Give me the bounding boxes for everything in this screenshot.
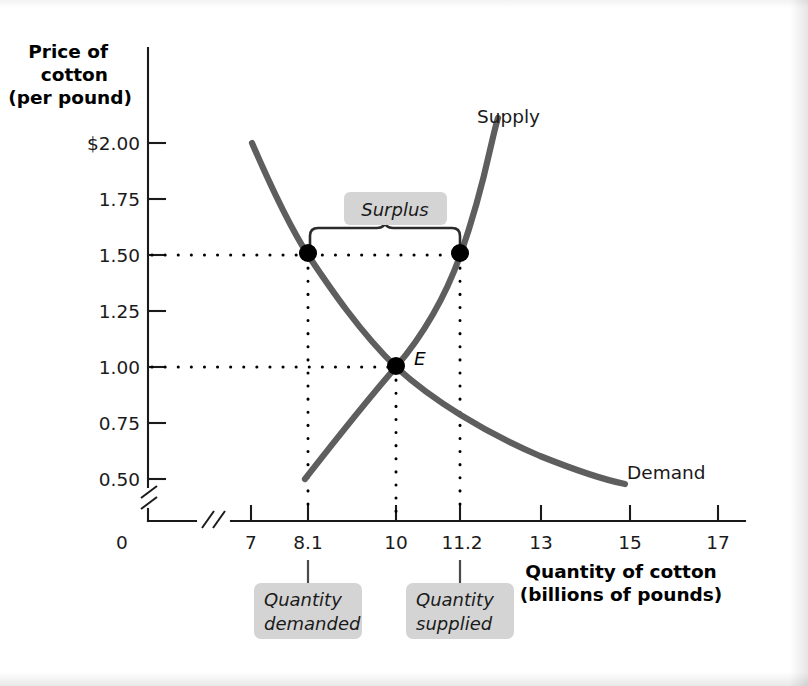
equilibrium-point-label: E	[414, 348, 426, 369]
x-tick-label-13: 13	[529, 532, 553, 553]
quantity-demanded-callout: Quantity demanded	[254, 560, 362, 639]
x-tick-label-11-2: 11.2	[441, 532, 482, 553]
y-tick-label-0-75: 0.75	[99, 413, 140, 434]
quantity-demanded-marker	[299, 244, 317, 262]
quantity-demanded-callout-line1: Quantity	[264, 589, 342, 610]
y-axis-title-line3: (per pound)	[8, 87, 132, 108]
x-tick-label-10: 10	[384, 532, 408, 553]
y-axis-title-line1: Price of	[28, 41, 109, 62]
supply-curve	[305, 118, 498, 479]
y-tick-label-2-00: $2.00	[87, 133, 140, 154]
surplus-brace	[310, 221, 460, 250]
x-axis-ticks	[251, 505, 718, 521]
quantity-demanded-callout-line2: demanded	[264, 613, 361, 634]
x-tick-label-8-1: 8.1	[293, 532, 322, 553]
quantity-supplied-callout: Quantity supplied	[406, 560, 514, 639]
y-tick-label-1-75: 1.75	[99, 189, 140, 210]
surplus-callout-label: Surplus	[361, 199, 428, 220]
y-tick-label-1-50: 1.50	[99, 245, 140, 266]
demand-curve-label: Demand	[627, 462, 705, 483]
x-axis-title-line2: (billions of pounds)	[520, 584, 723, 605]
y-tick-label-0-50: 0.50	[99, 469, 140, 490]
equilibrium-marker	[387, 357, 405, 375]
y-axis-break-marker	[141, 486, 157, 509]
figure-container: Price of cotton (per pound)	[0, 0, 808, 686]
x-tick-label-17: 17	[706, 532, 730, 553]
quantity-supplied-marker	[451, 244, 469, 262]
quantity-supplied-callout-line2: supplied	[416, 613, 493, 634]
origin-label: 0	[116, 532, 128, 553]
x-axis-title: Quantity of cotton (billions of pounds)	[520, 561, 723, 605]
y-axis-title: Price of cotton (per pound)	[8, 41, 132, 108]
y-axis-ticks	[148, 143, 166, 479]
x-axis-title-line1: Quantity of cotton	[525, 561, 717, 582]
supply-curve-label: Supply	[477, 106, 540, 127]
y-axis-tick-labels: $2.00 1.75 1.50 1.25 1.00 0.75 0.50	[87, 133, 140, 490]
y-tick-label-1-25: 1.25	[99, 301, 140, 322]
y-tick-label-1-00: 1.00	[99, 357, 140, 378]
surplus-callout: Surplus	[344, 192, 447, 225]
supply-demand-chart: Price of cotton (per pound)	[0, 0, 808, 686]
quantity-supplied-callout-line1: Quantity	[416, 589, 494, 610]
y-axis-title-line2: cotton	[41, 64, 108, 85]
x-axis-break-marker	[202, 511, 225, 528]
x-tick-label-15: 15	[618, 532, 642, 553]
x-tick-label-7: 7	[245, 532, 257, 553]
x-axis-tick-labels: 7 8.1 10 11.2 13 15 17	[245, 532, 730, 553]
